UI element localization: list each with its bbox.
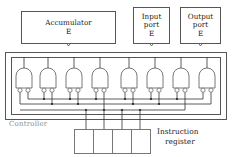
and-gate-7 xyxy=(173,57,189,92)
junction-dots xyxy=(43,98,178,111)
gate-input-stubs xyxy=(20,92,211,110)
and-gate-1 xyxy=(16,57,32,92)
wiring-layer xyxy=(0,0,232,157)
diagram-canvas: Accumulator E Input port E Output port E… xyxy=(0,0,232,157)
and-gate-5 xyxy=(121,57,137,92)
and-gate-4 xyxy=(92,57,108,92)
instruction-register-taps xyxy=(86,110,140,129)
controller-bus-lines xyxy=(20,99,211,110)
and-gate-2 xyxy=(40,57,56,92)
and-gate-3 xyxy=(66,57,82,92)
and-gate-8 xyxy=(199,57,215,92)
and-gate-6 xyxy=(147,57,163,92)
